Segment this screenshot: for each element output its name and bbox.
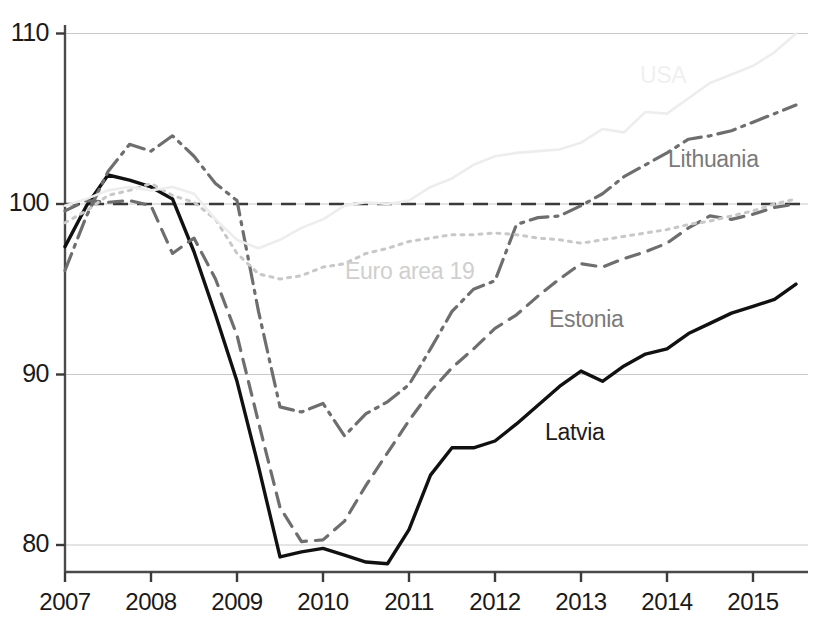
series-label-estonia: Estonia <box>549 306 624 333</box>
x-tick-label-2007: 2007 <box>20 588 110 616</box>
x-tick-label-2008: 2008 <box>106 588 196 616</box>
x-tick-label-2014: 2014 <box>622 588 712 616</box>
gdp-index-line-chart: 1101009080 20072008200920102011201220132… <box>0 0 817 631</box>
x-tick-label-2009: 2009 <box>192 588 282 616</box>
axis-lines-group <box>65 25 808 572</box>
x-tick-label-2010: 2010 <box>278 588 368 616</box>
x-tick-label-2011: 2011 <box>364 588 454 616</box>
x-tick-label-2013: 2013 <box>536 588 626 616</box>
tick-marks-group <box>56 34 753 583</box>
series-label-euro-area-19: Euro area 19 <box>345 258 474 285</box>
series-label-usa: USA <box>640 62 686 89</box>
series-line-latvia <box>65 175 796 564</box>
y-tick-label-110: 110 <box>0 18 49 47</box>
y-tick-label-80: 80 <box>0 529 49 558</box>
series-label-latvia: Latvia <box>545 419 605 446</box>
y-tick-label-90: 90 <box>0 359 49 388</box>
series-line-estonia <box>65 201 796 542</box>
plot-area <box>0 0 817 631</box>
series-paths-group <box>65 34 796 564</box>
x-tick-label-2012: 2012 <box>450 588 540 616</box>
x-tick-label-2015: 2015 <box>708 588 798 616</box>
y-tick-label-100: 100 <box>0 188 49 217</box>
series-label-lithuania: Lithuania <box>668 146 759 173</box>
